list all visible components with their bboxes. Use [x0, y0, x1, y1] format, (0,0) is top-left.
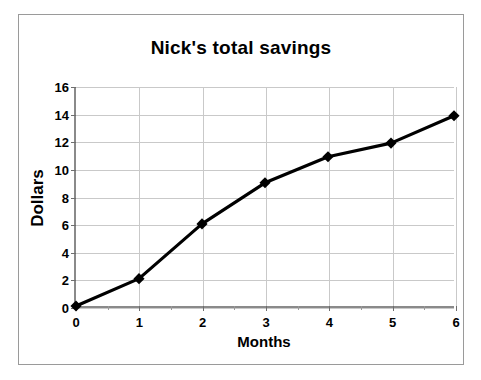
x-tick-mark-minor [108, 306, 109, 310]
data-series-line [76, 87, 454, 306]
y-tick-label: 10 [55, 162, 69, 177]
data-point-marker [448, 110, 459, 121]
y-tick-label: 0 [62, 301, 69, 316]
x-tick-mark [266, 306, 267, 311]
x-tick-label: 0 [72, 315, 79, 330]
data-point-marker [70, 300, 81, 311]
series-line [76, 116, 454, 306]
chart-title: Nick's total savings [19, 37, 463, 59]
gridline-horizontal [76, 308, 454, 309]
x-tick-mark-minor [361, 306, 362, 310]
data-point-marker [385, 138, 396, 149]
x-tick-mark [329, 306, 330, 311]
x-tick-label: 2 [199, 315, 206, 330]
x-tick-mark [456, 306, 457, 311]
x-tick-label: 5 [389, 315, 396, 330]
y-tick-label: 8 [62, 190, 69, 205]
x-tick-label: 4 [326, 315, 333, 330]
x-tick-mark [139, 306, 140, 311]
x-tick-mark-minor [424, 306, 425, 310]
y-tick-label: 12 [55, 135, 69, 150]
y-tick-label: 16 [55, 80, 69, 95]
y-tick-label: 4 [62, 245, 69, 260]
x-tick-label: 6 [452, 315, 459, 330]
y-tick-label: 2 [62, 273, 69, 288]
y-axis-title: Dollars [27, 87, 49, 308]
plot-area: 0246810121416 0123456 [74, 87, 454, 308]
x-tick-mark-minor [234, 306, 235, 310]
x-tick-mark-minor [171, 306, 172, 310]
x-axis-title: Months [74, 333, 454, 350]
x-tick-label: 3 [262, 315, 269, 330]
x-tick-label: 1 [136, 315, 143, 330]
data-point-marker [322, 151, 333, 162]
y-tick-label: 14 [55, 107, 69, 122]
x-tick-mark-minor [298, 306, 299, 310]
chart-frame: Nick's total savings Dollars 02468101214… [18, 14, 464, 365]
y-axis-title-label: Dollars [28, 169, 48, 227]
gridline-vertical [456, 87, 457, 306]
x-tick-mark [393, 306, 394, 311]
x-tick-mark [203, 306, 204, 311]
y-tick-label: 6 [62, 218, 69, 233]
